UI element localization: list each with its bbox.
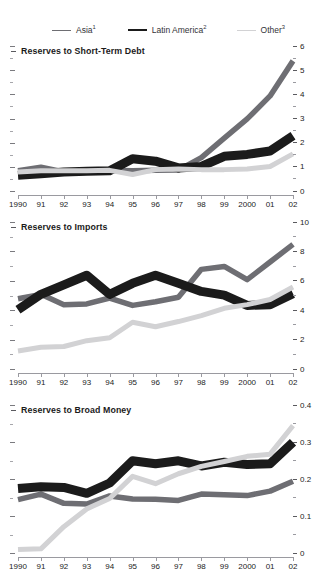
y-tick-dash-minor bbox=[293, 130, 296, 131]
y-tick-label: 4 bbox=[300, 305, 304, 314]
left-tick-1-1 bbox=[10, 237, 13, 238]
left-tick-2-1 bbox=[10, 424, 13, 425]
x-tick-0-1 bbox=[41, 195, 42, 199]
legend-label-other: Other3 bbox=[261, 26, 286, 35]
plot-area-2 bbox=[18, 409, 293, 557]
x-tick-label-1-4: 94 bbox=[105, 378, 114, 387]
left-tick-0-1 bbox=[10, 58, 13, 59]
legend-item-latin-america: Latin America2 bbox=[128, 26, 207, 35]
x-tick-label-2-2: 92 bbox=[59, 562, 68, 571]
y-tick-dash bbox=[293, 191, 297, 192]
y-tick-dash-minor bbox=[293, 178, 296, 179]
x-tick-label-1-0: 1990 bbox=[9, 378, 27, 387]
x-tick-0-12 bbox=[293, 195, 294, 199]
x-tick-label-0-0: 1990 bbox=[9, 200, 27, 209]
y-tick-label: 4 bbox=[300, 89, 304, 98]
left-tick-0-0 bbox=[10, 46, 15, 47]
x-tick-label-2-12: 02 bbox=[289, 562, 298, 571]
left-tick-0-9 bbox=[10, 155, 13, 156]
x-tick-2-8 bbox=[201, 557, 202, 561]
x-tick-label-1-3: 93 bbox=[82, 378, 91, 387]
left-tick-0-3 bbox=[10, 82, 13, 83]
legend-line-swatch-latin-america bbox=[128, 29, 147, 31]
legend-label-latin-america: Latin America2 bbox=[152, 26, 207, 35]
left-tick-2-5 bbox=[10, 498, 13, 499]
y-tick-dash-minor bbox=[293, 324, 296, 325]
x-tick-label-1-6: 96 bbox=[151, 378, 160, 387]
x-tick-1-12 bbox=[293, 373, 294, 377]
y-tick-label: 0.2 bbox=[300, 474, 311, 483]
chart-panel-reserves-to-imports: Reserves to Imports 0246810 199091929394… bbox=[0, 222, 324, 397]
y-tick-label: 10 bbox=[300, 217, 309, 226]
y-tick-label: 2 bbox=[300, 335, 304, 344]
x-tick-2-6 bbox=[156, 557, 157, 561]
x-tick-label-0-3: 93 bbox=[82, 200, 91, 209]
y-tick-dash bbox=[293, 142, 297, 143]
left-tick-0-6 bbox=[10, 119, 15, 120]
x-tick-0-3 bbox=[87, 195, 88, 199]
left-tick-0-8 bbox=[10, 143, 15, 144]
y-tick-dash bbox=[293, 251, 297, 252]
x-tick-label-2-8: 98 bbox=[197, 562, 206, 571]
x-tick-1-5 bbox=[133, 373, 134, 377]
x-tick-1-10 bbox=[247, 373, 248, 377]
x-tick-2-7 bbox=[178, 557, 179, 561]
y-axis-right-0: 0123456 bbox=[293, 46, 324, 214]
left-tick-0-7 bbox=[10, 131, 13, 132]
x-tick-1-0 bbox=[18, 373, 19, 377]
chart-legend: Asia1 Latin America2 Other3 bbox=[0, 22, 324, 38]
y-tick-dash bbox=[293, 166, 297, 167]
y-tick-dash bbox=[293, 46, 297, 47]
left-tick-1-9 bbox=[10, 354, 13, 355]
left-tick-column-1 bbox=[10, 222, 18, 397]
plot-svg-1 bbox=[18, 226, 293, 373]
x-tick-label-0-11: 01 bbox=[266, 200, 275, 209]
left-tick-1-5 bbox=[10, 296, 13, 297]
left-tick-0-10 bbox=[10, 167, 15, 168]
y-tick-dash-minor bbox=[293, 236, 296, 237]
x-tick-2-3 bbox=[87, 557, 88, 561]
legend-line-swatch-asia bbox=[52, 30, 71, 31]
y-tick-dash bbox=[293, 94, 297, 95]
y-tick-label: 6 bbox=[300, 41, 304, 50]
left-tick-0-12 bbox=[10, 191, 15, 192]
x-tick-label-0-4: 94 bbox=[105, 200, 114, 209]
y-tick-label: 3 bbox=[300, 114, 304, 123]
y-tick-dash-minor bbox=[293, 295, 296, 296]
left-tick-2-4 bbox=[10, 479, 15, 480]
x-tick-1-4 bbox=[110, 373, 111, 377]
plot-svg-0 bbox=[18, 50, 293, 195]
y-tick-dash bbox=[293, 70, 297, 71]
x-tick-label-0-10: 2000 bbox=[238, 200, 256, 209]
x-tick-0-2 bbox=[64, 195, 65, 199]
left-tick-2-3 bbox=[10, 461, 13, 462]
y-tick-dash-minor bbox=[293, 154, 296, 155]
x-tick-0-9 bbox=[224, 195, 225, 199]
left-tick-0-2 bbox=[10, 70, 15, 71]
x-tick-label-0-8: 98 bbox=[197, 200, 206, 209]
x-tick-label-2-10: 2000 bbox=[238, 562, 256, 571]
x-tick-label-2-3: 93 bbox=[82, 562, 91, 571]
x-tick-label-2-4: 94 bbox=[105, 562, 114, 571]
x-tick-label-2-6: 96 bbox=[151, 562, 160, 571]
x-tick-2-4 bbox=[110, 557, 111, 561]
x-tick-label-0-6: 96 bbox=[151, 200, 160, 209]
x-tick-label-1-8: 98 bbox=[197, 378, 206, 387]
x-tick-1-6 bbox=[156, 373, 157, 377]
y-tick-label: 1 bbox=[300, 162, 304, 171]
left-tick-0-4 bbox=[10, 94, 15, 95]
left-tick-1-3 bbox=[10, 266, 13, 267]
y-axis-right-1: 0246810 bbox=[293, 222, 324, 397]
y-tick-dash-minor bbox=[293, 534, 296, 535]
left-tick-2-0 bbox=[10, 405, 15, 406]
plot-area-0 bbox=[18, 50, 293, 195]
x-tick-label-0-1: 91 bbox=[36, 200, 45, 209]
x-tick-label-0-5: 95 bbox=[128, 200, 137, 209]
x-tick-2-12 bbox=[293, 557, 294, 561]
x-tick-2-1 bbox=[41, 557, 42, 561]
left-tick-1-2 bbox=[10, 251, 15, 252]
y-tick-label: 0 bbox=[300, 364, 304, 373]
y-tick-dash-minor bbox=[293, 58, 296, 59]
x-tick-0-5 bbox=[133, 195, 134, 199]
x-tick-label-2-0: 1990 bbox=[9, 562, 27, 571]
